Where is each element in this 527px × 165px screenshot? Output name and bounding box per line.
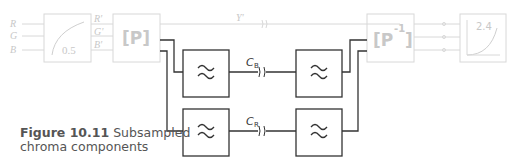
gamma-decode-value: 2.4 xyxy=(476,21,492,32)
cb-lowpass-filter-1 xyxy=(183,50,229,97)
cr-lowpass-filter-2 xyxy=(296,109,342,156)
cb-subscript: B xyxy=(254,62,259,70)
cb-lowpass-filter-2 xyxy=(296,50,342,97)
gamma-encode-value: 0.5 xyxy=(62,44,76,56)
luma-label: Y' xyxy=(236,12,245,23)
inverse-matrix-label: [P xyxy=(373,30,393,50)
figure-caption: Figure 10.11 Subsampled chroma component… xyxy=(20,126,190,154)
cr-label: C xyxy=(246,115,254,128)
inverse-matrix-superscript: -1 xyxy=(394,23,405,34)
caption-number: Figure 10.11 xyxy=(20,125,109,140)
prime-g-label: G' xyxy=(94,26,104,37)
cb-label: C xyxy=(246,56,254,69)
cr-subscript: R xyxy=(254,121,259,129)
prime-r-label: R' xyxy=(93,13,103,24)
input-r-label: R xyxy=(9,18,16,29)
input-g-label: G xyxy=(10,30,17,41)
caption-title-line2: chroma components xyxy=(20,139,148,154)
matrix-label: [P] xyxy=(122,28,150,48)
input-b-label: B xyxy=(10,44,16,55)
caption-title-line1: Subsampled xyxy=(113,125,190,140)
inverse-matrix-close: ] xyxy=(405,30,413,50)
prime-b-label: B' xyxy=(94,39,103,50)
